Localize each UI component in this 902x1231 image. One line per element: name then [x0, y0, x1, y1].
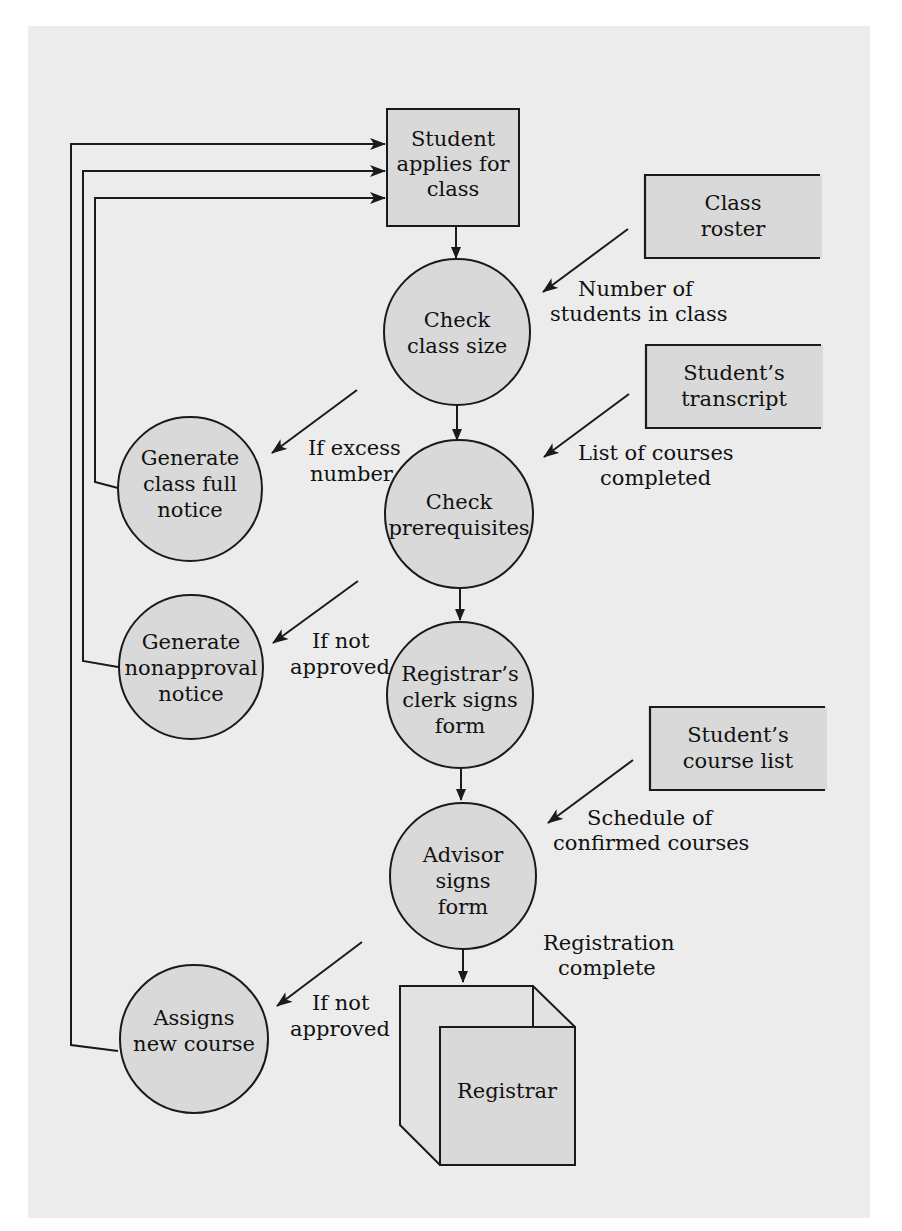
store-label: Class — [705, 191, 762, 215]
flow-label-line: completed — [600, 466, 711, 490]
process-label: notice — [157, 498, 223, 522]
process-label: class full — [143, 472, 237, 496]
process-assigns-new-course: Assigns new course — [120, 965, 268, 1113]
student-applies-entity: Student applies for class — [387, 109, 519, 226]
process-advisor-signs-form: Advisor signs form — [390, 803, 536, 949]
flow-label-line: complete — [558, 956, 656, 980]
flow-label-line: approved — [290, 655, 390, 679]
process-check-class-size: Check class size — [384, 259, 530, 405]
data-store-student-transcript: Student’s transcript — [646, 345, 823, 428]
entity-line-1: Student — [411, 127, 496, 151]
flow-label-registration-complete: Registration complete — [543, 931, 675, 980]
process-label: notice — [158, 682, 224, 706]
process-label: Registrar’s — [401, 662, 519, 686]
registrar-box: Registrar — [400, 986, 575, 1165]
store-label: Student’s — [683, 361, 785, 385]
registrar-label: Registrar — [457, 1079, 558, 1103]
flow-label-line: If not — [312, 991, 370, 1015]
process-label: Check — [424, 308, 491, 332]
process-label: class size — [407, 334, 507, 358]
flow-label-line: If not — [312, 629, 370, 653]
process-label: Generate — [142, 630, 241, 654]
flow-label-line: approved — [290, 1017, 390, 1041]
process-label: form — [435, 714, 485, 738]
store-label: roster — [701, 217, 766, 241]
data-store-student-course-list: Student’s course list — [650, 707, 827, 790]
flow-label-line: Number of — [578, 277, 695, 301]
process-label: clerk signs — [402, 688, 518, 712]
flow-label-list-of-courses: List of courses completed — [578, 441, 734, 490]
flow-label-line: students in class — [550, 302, 728, 326]
process-label: signs — [435, 869, 490, 893]
process-label: form — [438, 895, 488, 919]
store-label: Student’s — [687, 723, 789, 747]
flow-label-line: If excess — [308, 436, 401, 460]
process-label: Advisor — [422, 843, 505, 867]
store-label: transcript — [681, 387, 787, 411]
entity-line-3: class — [427, 177, 480, 201]
flow-label-line: List of courses — [578, 441, 734, 465]
process-label: Generate — [141, 446, 240, 470]
store-label: course list — [683, 749, 794, 773]
process-label: new course — [133, 1032, 255, 1056]
data-store-class-roster: Class roster — [645, 175, 822, 258]
process-label: Assigns — [152, 1006, 234, 1030]
process-label: Check — [426, 490, 493, 514]
process-generate-class-full-notice: Generate class full notice — [118, 417, 262, 561]
process-check-prerequisites: Check prerequisites — [385, 440, 533, 588]
process-label: prerequisites — [388, 516, 529, 540]
process-clerk-signs-form: Registrar’s clerk signs form — [387, 622, 533, 768]
entity-line-2: applies for — [396, 152, 510, 176]
flow-label-line: Registration — [543, 931, 675, 955]
flow-label-line: number — [310, 462, 394, 486]
flow-label-line: confirmed courses — [553, 831, 749, 855]
data-flow-diagram: Student applies for class Check class si… — [0, 0, 902, 1231]
process-label: nonapproval — [125, 656, 258, 680]
flow-label-line: Schedule of — [587, 806, 715, 830]
process-generate-nonapproval-notice: Generate nonapproval notice — [119, 595, 263, 739]
